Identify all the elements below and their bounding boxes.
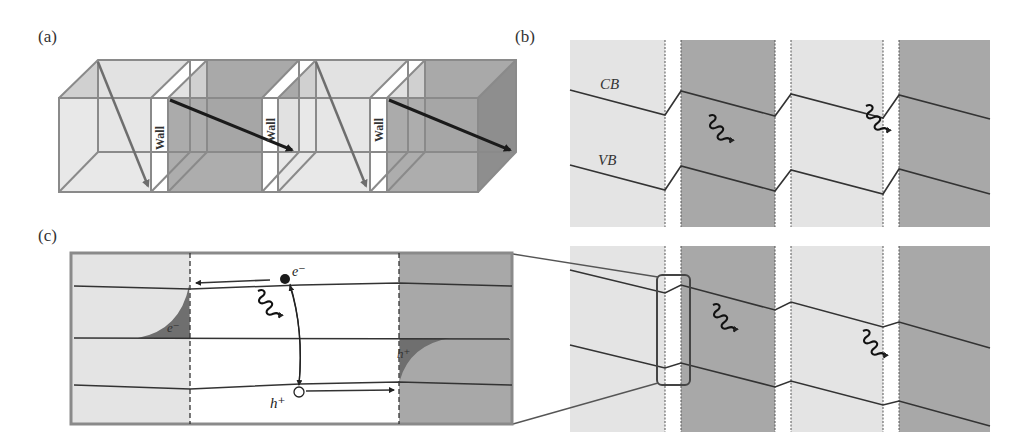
electron-dot-icon	[280, 274, 290, 284]
trapped-electron-label: e⁻	[167, 320, 180, 335]
fermi-level-line	[74, 338, 510, 339]
drift-arrow-icon	[306, 390, 394, 391]
vb-label: VB	[598, 152, 616, 168]
electron-label: e⁻	[292, 264, 306, 279]
hole-label: h⁺	[270, 395, 285, 411]
panel-c-domain-wall-zoom: e⁻ h⁺ e⁻ h⁺	[71, 253, 512, 424]
wall-label: Wall	[372, 117, 386, 142]
panel-b-band-diagram-lower	[570, 246, 990, 432]
wall-label: Wall	[153, 125, 167, 150]
cb-label: CB	[600, 76, 619, 92]
wall-label: Wall	[264, 117, 278, 142]
hole-circle-icon	[294, 387, 304, 397]
panel-b-band-diagram-upper: CB VB	[570, 40, 990, 227]
trapped-hole-label: h⁺	[397, 346, 410, 361]
ferroelectric-domain-diagram: Wall Wall Wall CB VB	[0, 0, 1032, 446]
panel-a-domain-boxes: Wall Wall Wall	[59, 60, 517, 192]
